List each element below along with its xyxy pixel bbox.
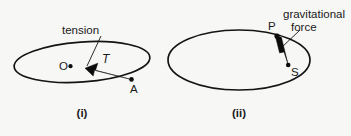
gravitational-force-vector-arrow [275, 36, 288, 65]
tension-leader-line [87, 36, 101, 66]
orbit-ellipse-ii [168, 30, 310, 90]
figure-canvas: tension O T A (i) gravitational force P … [0, 0, 351, 136]
point-label-a: A [130, 83, 138, 95]
gravitational-force-callout-line1: gravitational [283, 8, 345, 20]
point-dot-a [129, 77, 134, 82]
panel-ii-group: gravitational force P S (ii) [168, 8, 345, 119]
panel-i-group: tension O T A (i) [13, 24, 151, 119]
tension-callout-label: tension [62, 24, 99, 36]
point-dot-s [286, 63, 291, 68]
point-label-o: O [59, 60, 68, 72]
gravitational-force-callout-line2: force [291, 21, 317, 33]
point-dot-o [68, 64, 72, 68]
point-dot-p [274, 33, 279, 38]
point-label-p: P [268, 20, 276, 32]
vector-label-tension: T [102, 52, 111, 66]
panel-caption-i: (i) [77, 107, 88, 119]
point-label-s: S [291, 66, 299, 78]
panel-caption-ii: (ii) [232, 107, 246, 119]
physics-figure: tension O T A (i) gravitational force P … [0, 0, 351, 136]
